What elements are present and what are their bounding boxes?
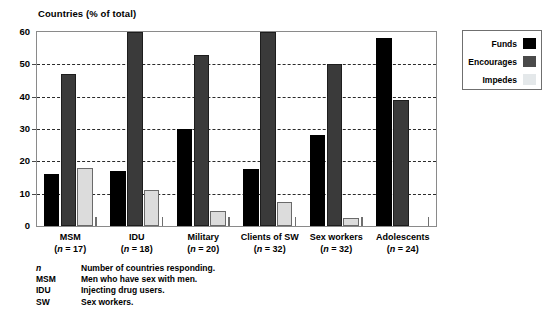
legend-item-label: Funds — [492, 39, 518, 49]
footnote-text: Sex workers. — [81, 297, 133, 308]
bar — [77, 168, 93, 226]
y-tick-label: 50 — [0, 59, 30, 69]
group-separator-tick — [428, 217, 430, 226]
legend-swatch-funds — [523, 38, 536, 49]
group-separator-tick — [95, 217, 97, 226]
footnote-key: n — [36, 263, 81, 274]
bar — [277, 202, 293, 226]
footnote-row: nNumber of countries responding. — [36, 263, 215, 274]
y-tick-label: 60 — [0, 27, 30, 37]
bar — [260, 32, 276, 226]
y-tick-label: 0 — [0, 221, 30, 231]
y-tick-label: 30 — [0, 124, 30, 134]
bar — [44, 174, 60, 226]
footnote-key: SW — [36, 297, 81, 308]
footnote-row: SWSex workers. — [36, 297, 215, 308]
x-axis-group-label: Adolescents(n = 24) — [364, 232, 443, 255]
footnote-row: IDUInjecting drug users. — [36, 285, 215, 296]
y-axis-title: Countries (% of total) — [38, 8, 136, 19]
bar — [310, 135, 326, 226]
group-separator-tick — [295, 217, 297, 226]
y-tick-mark — [32, 64, 36, 65]
legend-item-label: Encourages — [468, 57, 517, 67]
bar — [127, 32, 143, 226]
footnotes-block: nNumber of countries responding.MSMMen w… — [36, 263, 215, 308]
y-tick-label: 40 — [0, 92, 30, 102]
chart-legend: FundsEncouragesImpedes — [462, 30, 542, 90]
y-tick-label: 20 — [0, 156, 30, 166]
bar — [144, 190, 160, 226]
chart-figure: Countries (% of total) 0102030405060 MSM… — [0, 0, 548, 318]
bar — [376, 38, 392, 226]
footnote-text: Men who have sex with men. — [81, 274, 197, 285]
footnote-key: IDU — [36, 285, 81, 296]
bar — [110, 171, 126, 226]
group-separator-tick — [162, 217, 164, 226]
plot-inner — [37, 32, 436, 226]
bar — [177, 129, 193, 226]
group-separator-tick — [361, 217, 363, 226]
bar — [393, 100, 409, 226]
footnote-text: Injecting drug users. — [81, 285, 165, 296]
legend-item[interactable]: Funds — [492, 38, 537, 49]
y-tick-mark — [32, 129, 36, 130]
bar — [327, 64, 343, 226]
legend-swatch-impedes — [523, 74, 536, 85]
footnote-row: MSMMen who have sex with men. — [36, 274, 215, 285]
legend-item[interactable]: Encourages — [468, 56, 536, 67]
legend-swatch-encourages — [523, 56, 536, 67]
bar — [343, 218, 359, 226]
bar — [243, 169, 259, 226]
legend-item-label: Impedes — [483, 75, 518, 85]
y-tick-mark — [32, 161, 36, 162]
bar — [194, 55, 210, 226]
legend-item[interactable]: Impedes — [483, 74, 537, 85]
y-tick-label: 10 — [0, 189, 30, 199]
y-tick-mark — [32, 97, 36, 98]
y-tick-mark — [32, 194, 36, 195]
plot-area — [36, 31, 437, 227]
x-label-name: Adolescents — [364, 232, 443, 244]
footnote-key: MSM — [36, 274, 81, 285]
group-separator-tick — [228, 217, 230, 226]
bar — [210, 211, 226, 226]
x-label-n: (n = 24) — [364, 244, 443, 256]
footnote-text: Number of countries responding. — [81, 263, 215, 274]
bar — [61, 74, 77, 226]
